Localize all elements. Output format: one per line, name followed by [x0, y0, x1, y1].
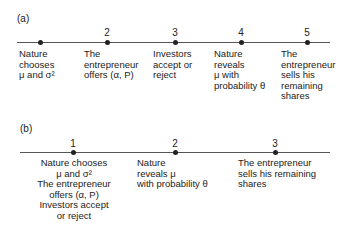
- timeline-b-point-3: [273, 150, 278, 155]
- event-b-1-text: Nature chooses μ and σ² The entrepreneur…: [30, 158, 118, 221]
- event-b-3-text: The entrepreneur sells his remaining sha…: [238, 158, 316, 190]
- event-b-3-number: 3: [269, 138, 281, 149]
- event-a-2-number: 2: [101, 27, 113, 38]
- timeline-b-point-1: [71, 150, 76, 155]
- panel-b-label: (b): [20, 123, 32, 134]
- event-a-5-text: The entrepreneur sells his remaining sha…: [281, 49, 335, 102]
- event-a-3-text: Investors accept or reject: [153, 49, 192, 81]
- event-b-1-number: 1: [67, 138, 79, 149]
- timeline-a-point-5: [305, 40, 310, 45]
- panel-a-label: (a): [17, 13, 29, 24]
- event-a-2-text: The entrepreneur offers (α, P): [84, 49, 138, 81]
- timeline-b-point-2: [173, 150, 178, 155]
- event-b-2-text: Nature reveals μ with probability θ: [137, 158, 208, 190]
- timeline-a-point-4: [239, 40, 244, 45]
- event-a-1-text: Nature chooses μ and σ²: [19, 49, 55, 81]
- event-a-5-number: 5: [301, 27, 313, 38]
- event-a-4-text: Nature reveals μ with probability θ: [214, 49, 265, 91]
- event-a-4-number: 4: [235, 27, 247, 38]
- timeline-a-point-3: [173, 40, 178, 45]
- timeline-a-point-2: [105, 40, 110, 45]
- event-a-3-number: 3: [169, 27, 181, 38]
- timeline-a-point-1: [38, 40, 43, 45]
- event-b-2-number: 2: [169, 138, 181, 149]
